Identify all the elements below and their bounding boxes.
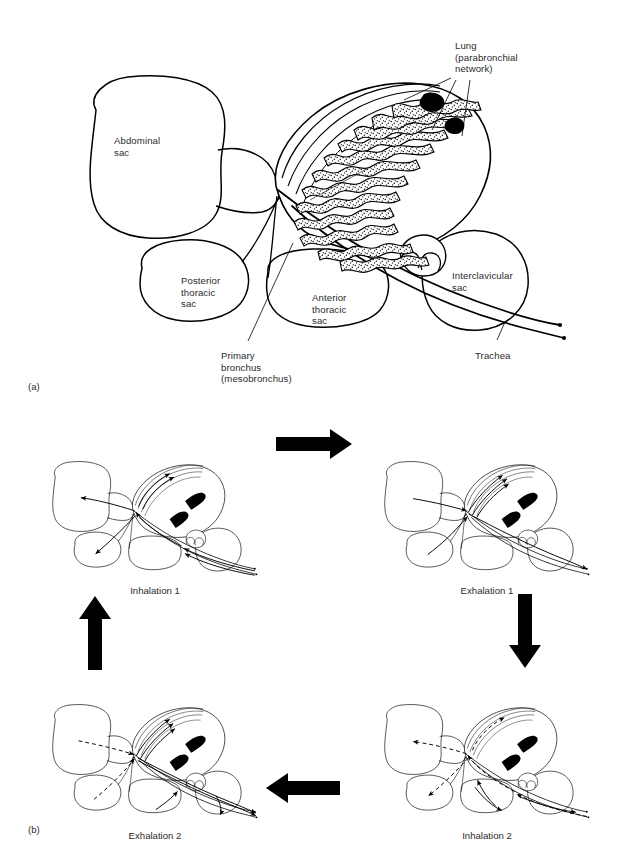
label-trachea: Trachea bbox=[475, 350, 511, 362]
panel-b-tag: (b) bbox=[28, 824, 40, 835]
label-interclavicular-sac: Interclavicular sac bbox=[452, 270, 513, 293]
cycle-arrow-top-right bbox=[276, 429, 352, 459]
label-primary-bronchus: Primary bronchus (mesobronchus) bbox=[221, 350, 292, 385]
stage-diagram-inhalation-2 bbox=[385, 705, 590, 819]
stage-label-inhalation-2: Inhalation 2 bbox=[462, 830, 512, 841]
stage-diagram-inhalation-1 bbox=[53, 462, 258, 576]
stage-label-inhalation-1: Inhalation 1 bbox=[130, 585, 180, 596]
stage-diagram-exhalation-2 bbox=[53, 705, 258, 819]
respiratory-figure: (a) Lung (parabronchial network) Abdomin… bbox=[0, 0, 634, 858]
cycle-arrow-bottom-left bbox=[266, 773, 340, 803]
stage-label-exhalation-2: Exhalation 2 bbox=[129, 830, 182, 841]
cycle-arrow-left-up bbox=[79, 596, 111, 670]
figure-canvas bbox=[0, 0, 634, 858]
label-anterior-thoracic-sac: Anterior thoracic sac bbox=[312, 292, 346, 327]
label-abdominal-sac: Abdominal sac bbox=[114, 135, 160, 158]
stage-diagram-exhalation-1 bbox=[385, 462, 590, 576]
label-lung: Lung (parabronchial network) bbox=[455, 40, 518, 75]
stage-label-exhalation-1: Exhalation 1 bbox=[461, 585, 514, 596]
panel-a-tag: (a) bbox=[28, 381, 40, 392]
cycle-arrow-right-down bbox=[509, 594, 541, 668]
label-posterior-thoracic-sac: Posterior thoracic sac bbox=[181, 275, 220, 310]
